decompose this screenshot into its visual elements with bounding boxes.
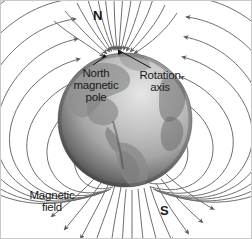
label-north-pole-marker: N xyxy=(93,9,102,22)
label-magnetic-field: Magnetic field xyxy=(19,189,85,213)
label-north-magnetic-pole: North magnetic pole xyxy=(63,67,129,103)
magnetic-field-diagram: North magnetic pole Rotation axis Magnet… xyxy=(0,0,252,239)
label-rotation-axis: Rotation axis xyxy=(132,69,188,93)
label-south-pole-marker: S xyxy=(160,204,168,217)
north-pole-flux-lines xyxy=(54,1,177,56)
